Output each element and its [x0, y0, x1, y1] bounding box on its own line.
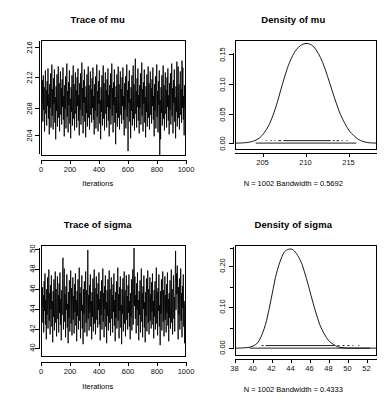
x-tickmark-density-mu-2 [349, 153, 350, 157]
xtick-density-mu-0: 205 [256, 158, 269, 167]
y-tickmark-trace-mu-0 [35, 135, 39, 136]
y-axis-line-trace-sigma [39, 248, 40, 349]
y-tickmark-density-mu-2 [229, 84, 233, 85]
density-mu-curve [236, 43, 376, 143]
xlabel-trace-mu: Iterations [0, 179, 196, 188]
xtick-density-sigma-4: 46 [305, 364, 313, 373]
plot-area-density-mu [235, 40, 377, 150]
x-axis-line-trace-sigma [41, 362, 186, 363]
x-tickmark-density-sigma-6 [348, 359, 349, 363]
xtick-density-sigma-1: 40 [248, 364, 256, 373]
plot-area-trace-mu [41, 40, 186, 156]
xtick-density-mu-1: 210 [299, 158, 312, 167]
y-tickmark-trace-sigma-3 [35, 289, 39, 290]
ytick-density-sigma-2: 0.20 [204, 261, 230, 271]
ytick-density-sigma-0: 0.00 [204, 343, 230, 353]
density-sigma-rug [249, 345, 369, 348]
y-tickmark-density-sigma-minor-2 [230, 248, 233, 249]
trace-sigma-line [42, 247, 185, 344]
y-axis-line-density-mu [233, 53, 234, 144]
x-tickmark-trace-sigma-4 [157, 362, 158, 366]
y-tickmark-trace-mu-1 [35, 108, 39, 109]
ytick-trace-sigma-5: 50 [10, 244, 36, 254]
x-tickmark-trace-mu-0 [41, 160, 42, 164]
x-tickmark-trace-mu-5 [186, 160, 187, 164]
xtick-density-sigma-5: 48 [324, 364, 332, 373]
xtick-trace-sigma-4: 800 [151, 367, 164, 376]
y-tickmark-density-sigma-1 [229, 307, 233, 308]
xtick-trace-mu-5: 1000 [178, 165, 195, 174]
panel-title-density-sigma: Density of sigma [196, 219, 391, 230]
xtick-trace-sigma-2: 400 [93, 367, 106, 376]
ytick-trace-sigma-0: 40 [10, 343, 36, 353]
ytick-density-mu-2: 0.10 [204, 79, 230, 89]
x-axis-line-density-sigma [235, 359, 377, 360]
xtick-density-sigma-7: 52 [362, 364, 370, 373]
x-tickmark-trace-sigma-5 [186, 362, 187, 366]
y-tickmark-trace-sigma-4 [35, 269, 39, 270]
xtick-density-sigma-2: 42 [267, 364, 275, 373]
panel-title-trace-mu: Trace of mu [0, 14, 196, 25]
ytick-density-mu-3: 0.15 [204, 49, 230, 59]
xtick-density-mu-2: 215 [342, 158, 355, 167]
xtick-density-sigma-6: 50 [343, 364, 351, 373]
xtick-trace-mu-2: 400 [93, 165, 106, 174]
note-density-sigma: N = 1002 Bandwidth = 0.4333 [196, 385, 391, 394]
x-tickmark-density-sigma-3 [291, 359, 292, 363]
x-tickmark-density-mu-0 [263, 153, 264, 157]
panel-trace-sigma: Trace of sigma 40 42 44 46 48 50 [0, 205, 196, 409]
y-tickmark-density-sigma-2 [229, 266, 233, 267]
x-tickmark-trace-mu-3 [128, 160, 129, 164]
x-tickmark-trace-sigma-3 [128, 362, 129, 366]
xtick-trace-mu-0: 0 [39, 165, 43, 174]
density-mu-svg [236, 41, 376, 149]
trace-mu-line [42, 59, 185, 155]
mcmc-diagnostic-figure: Trace of mu 204 208 212 216 [0, 0, 391, 409]
x-tickmark-trace-mu-4 [157, 160, 158, 164]
xlabel-trace-sigma: Iterations [0, 382, 196, 391]
y-axis-line-density-sigma [233, 247, 234, 349]
density-mu-rug [255, 141, 356, 143]
panel-density-sigma: Density of sigma 0.00 0.10 0.20 [196, 205, 391, 409]
note-density-mu: N = 1002 Bandwidth = 0.5692 [196, 179, 391, 188]
plot-area-density-sigma [235, 245, 377, 356]
x-tickmark-density-sigma-2 [272, 359, 273, 363]
ytick-density-sigma-1: 0.10 [204, 302, 230, 312]
y-tickmark-density-mu-0 [229, 143, 233, 144]
ytick-density-mu-0: 0.00 [204, 138, 230, 148]
ytick-trace-mu-2: 212 [10, 72, 36, 82]
xtick-trace-sigma-1: 200 [64, 367, 77, 376]
panel-title-trace-sigma: Trace of sigma [0, 219, 196, 230]
y-tickmark-trace-mu-3 [35, 47, 39, 48]
trace-sigma-svg [42, 246, 185, 356]
ytick-trace-sigma-1: 42 [10, 324, 36, 334]
x-tickmark-trace-mu-1 [70, 160, 71, 164]
x-axis-line-trace-mu [41, 160, 186, 161]
y-tickmark-density-sigma-minor-0 [230, 328, 233, 329]
density-sigma-curve [236, 248, 376, 347]
x-tickmark-density-mu-1 [306, 153, 307, 157]
xtick-trace-sigma-5: 1000 [178, 367, 195, 376]
panel-title-density-mu: Density of mu [196, 14, 391, 25]
y-tickmark-density-mu-1 [229, 114, 233, 115]
ytick-trace-mu-3: 216 [10, 42, 36, 52]
y-axis-line-trace-mu [39, 41, 40, 154]
x-tickmark-density-sigma-1 [253, 359, 254, 363]
x-tickmark-density-sigma-0 [235, 359, 236, 363]
y-tickmark-trace-mu-2 [35, 77, 39, 78]
y-tickmark-density-sigma-0 [229, 348, 233, 349]
xtick-trace-sigma-0: 0 [39, 367, 43, 376]
trace-mu-svg [42, 41, 185, 155]
ytick-trace-mu-0: 204 [10, 130, 36, 140]
y-tickmark-trace-sigma-2 [35, 309, 39, 310]
density-sigma-svg [236, 246, 376, 355]
xtick-density-sigma-3: 44 [286, 364, 294, 373]
x-tickmark-trace-mu-2 [99, 160, 100, 164]
xtick-trace-mu-3: 600 [122, 165, 135, 174]
ytick-density-mu-1: 0.05 [204, 109, 230, 119]
xtick-trace-mu-4: 800 [151, 165, 164, 174]
ytick-trace-mu-1: 208 [10, 103, 36, 113]
x-tickmark-trace-sigma-0 [41, 362, 42, 366]
y-tickmark-trace-sigma-5 [35, 249, 39, 250]
ytick-trace-sigma-4: 48 [10, 264, 36, 274]
